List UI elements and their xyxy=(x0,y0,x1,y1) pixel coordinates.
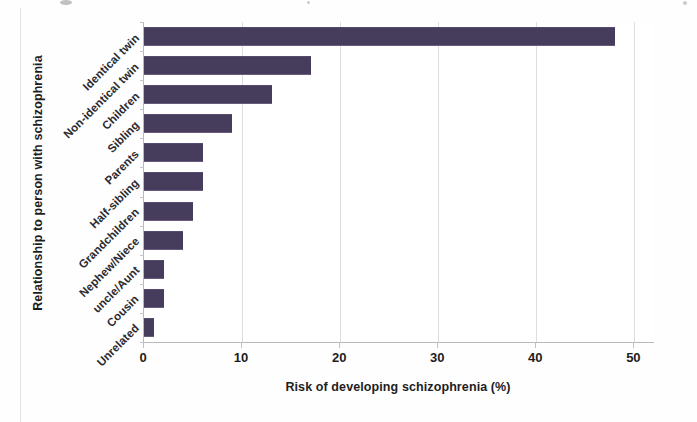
bar-row xyxy=(144,255,654,284)
y-axis-category-labels: Identical twinNon-identical twinChildren… xyxy=(0,22,143,342)
bar-row xyxy=(144,80,654,109)
bar-row xyxy=(144,109,654,138)
x-tick-label: 30 xyxy=(430,350,444,365)
bar-row xyxy=(144,22,654,51)
y-category-label: Unrelated xyxy=(95,322,142,369)
bar-row xyxy=(144,313,654,342)
bar-row xyxy=(144,226,654,255)
plot-area xyxy=(143,22,654,343)
bar-row xyxy=(144,138,654,167)
scan-artifact-smudge xyxy=(60,0,72,5)
schizophrenia-risk-bar-chart: Relationship to person with schizophreni… xyxy=(0,0,697,422)
bar xyxy=(144,143,203,162)
x-axis-tick-labels: 01020304050 xyxy=(143,348,653,368)
x-tick-mark-20 xyxy=(339,342,340,348)
bar-row xyxy=(144,284,654,313)
bar xyxy=(144,231,183,250)
x-tick-label: 20 xyxy=(332,350,346,365)
bar xyxy=(144,289,164,308)
bar-row xyxy=(144,197,654,226)
bar xyxy=(144,56,311,75)
x-tick-mark-40 xyxy=(535,342,536,348)
bar xyxy=(144,85,272,104)
x-tick-label: 10 xyxy=(234,350,248,365)
bar xyxy=(144,27,615,46)
x-tick-mark-0 xyxy=(143,342,144,348)
x-tick-label: 0 xyxy=(139,350,146,365)
x-tick-label: 40 xyxy=(528,350,542,365)
x-tick-mark-50 xyxy=(633,342,634,348)
bar-row xyxy=(144,51,654,80)
bar xyxy=(144,114,232,133)
scan-artifact-dot-right xyxy=(683,1,687,5)
bar xyxy=(144,260,164,279)
x-tick-mark-10 xyxy=(241,342,242,348)
x-tick-label: 50 xyxy=(626,350,640,365)
scan-artifact-dot xyxy=(307,1,310,4)
bar xyxy=(144,202,193,221)
bar-row xyxy=(144,167,654,196)
bar xyxy=(144,318,154,337)
x-tick-mark-30 xyxy=(437,342,438,348)
bar xyxy=(144,172,203,191)
x-axis-title: Risk of developing schizophrenia (%) xyxy=(143,380,653,394)
